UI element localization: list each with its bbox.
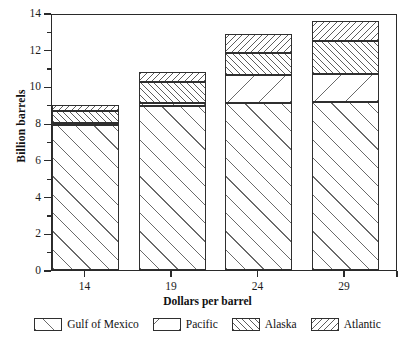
- y-tick-label: 14: [1, 8, 41, 20]
- bar-segment: [312, 41, 379, 74]
- chart-figure: Billion barrels 02468101214 14192429 Dol…: [0, 0, 415, 347]
- legend-swatch-icon: [34, 318, 62, 331]
- y-tick-major: [44, 50, 51, 51]
- x-tick: [343, 271, 344, 277]
- plot-area: [51, 14, 397, 271]
- x-axis-title: Dollars per barrel: [0, 295, 415, 307]
- y-tick-label: 10: [1, 81, 41, 93]
- x-tick: [257, 271, 258, 277]
- bar-stack: [225, 13, 292, 270]
- bar-segment: [139, 106, 206, 270]
- bar-stack: [312, 13, 379, 270]
- legend-label: Alaska: [265, 318, 297, 331]
- x-tick-label: 29: [324, 280, 364, 292]
- x-tick-label: 14: [65, 280, 105, 292]
- bar-segment: [312, 74, 379, 102]
- y-tick-major: [44, 234, 51, 235]
- y-tick-major: [44, 160, 51, 161]
- legend-swatch-icon: [153, 318, 181, 331]
- legend-swatch-icon: [311, 318, 339, 331]
- bar-segment: [225, 103, 292, 270]
- legend-item[interactable]: Atlantic: [311, 318, 381, 331]
- x-tick-label: 19: [151, 280, 191, 292]
- bar-segment: [52, 105, 119, 111]
- bar-stack: [139, 13, 206, 270]
- y-tick-label: 6: [1, 155, 41, 167]
- bar-segment: [52, 125, 119, 270]
- bar-segment: [139, 82, 206, 103]
- y-tick-major: [44, 124, 51, 125]
- bar-segment: [52, 111, 119, 123]
- bar-segment: [52, 123, 119, 125]
- legend-label: Pacific: [186, 318, 218, 331]
- x-tick: [396, 271, 397, 277]
- y-tick-major: [44, 270, 51, 271]
- x-tick: [84, 271, 85, 277]
- legend-swatch-icon: [232, 318, 260, 331]
- y-tick-label: 12: [1, 45, 41, 57]
- bar-segment: [139, 72, 206, 82]
- x-tick: [170, 271, 171, 277]
- bar-segment: [225, 34, 292, 53]
- x-tick-label: 24: [238, 280, 278, 292]
- y-tick-major: [44, 13, 51, 14]
- legend-item[interactable]: Gulf of Mexico: [34, 318, 139, 331]
- y-tick-label: 8: [1, 118, 41, 130]
- y-tick-label: 4: [1, 192, 41, 204]
- chart-legend: Gulf of MexicoPacificAlaskaAtlantic: [0, 318, 415, 331]
- legend-label: Atlantic: [344, 318, 381, 331]
- bar-segment: [312, 102, 379, 270]
- y-tick-major: [44, 87, 51, 88]
- bar-stack: [52, 13, 119, 270]
- bars-layer: [52, 15, 396, 270]
- bar-segment: [225, 53, 292, 75]
- legend-label: Gulf of Mexico: [67, 318, 139, 331]
- legend-item[interactable]: Alaska: [232, 318, 297, 331]
- y-tick-label: 2: [1, 228, 41, 240]
- bar-segment: [139, 103, 206, 106]
- y-tick-label: 0: [1, 265, 41, 277]
- legend-item[interactable]: Pacific: [153, 318, 218, 331]
- bar-segment: [225, 75, 292, 103]
- y-tick-major: [44, 197, 51, 198]
- bar-segment: [312, 21, 379, 40]
